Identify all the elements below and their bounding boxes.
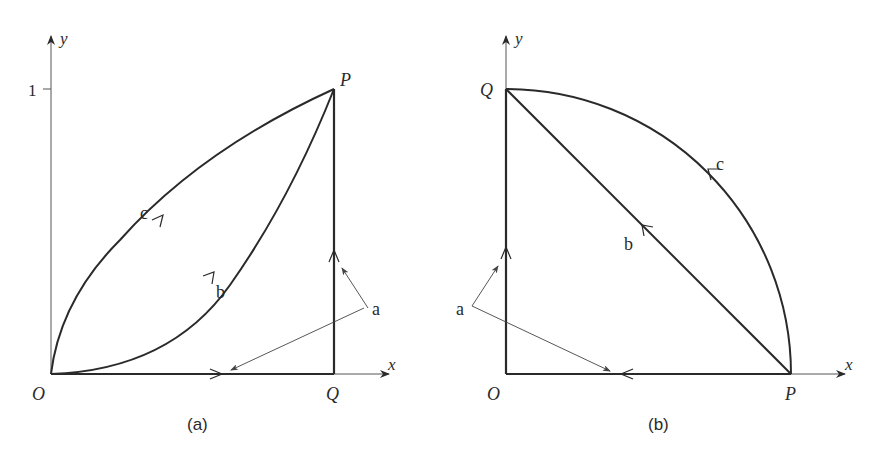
y-axis-label: y xyxy=(58,29,68,48)
path-b-curve xyxy=(51,89,334,374)
leader-line xyxy=(342,268,368,308)
y-axis-label: y xyxy=(513,29,523,48)
point-label-p: P xyxy=(339,70,351,90)
panel-a: y x 1 O Q P a b c (a) xyxy=(28,29,396,434)
path-label-c: c xyxy=(140,203,148,223)
panel-caption: (b) xyxy=(648,415,669,434)
panel-b: y x O P Q a b c (b) xyxy=(456,29,853,434)
x-axis-label: x xyxy=(387,355,396,374)
leader-line xyxy=(472,306,610,371)
arrow-icon xyxy=(152,215,163,227)
point-label-q: Q xyxy=(326,384,339,404)
path-label-a: a xyxy=(372,299,380,319)
point-label-p: P xyxy=(784,384,796,404)
path-c-curve xyxy=(51,89,334,374)
x-axis-label: x xyxy=(844,355,853,374)
point-label-origin: O xyxy=(32,384,45,404)
arrow-icon xyxy=(203,272,214,284)
point-label-q: Q xyxy=(480,80,493,100)
leader-line xyxy=(472,266,498,306)
path-label-a: a xyxy=(456,299,464,319)
diagram-canvas: y x 1 O Q P a b c (a) y x O P Q a xyxy=(0,0,877,461)
path-label-b: b xyxy=(216,282,225,302)
leader-line xyxy=(231,308,364,370)
panel-caption: (a) xyxy=(187,415,208,434)
path-label-c: c xyxy=(716,154,724,174)
path-b-line xyxy=(506,89,791,374)
point-label-origin: O xyxy=(487,384,500,404)
y-tick-label: 1 xyxy=(28,81,37,100)
path-label-b: b xyxy=(624,234,633,254)
